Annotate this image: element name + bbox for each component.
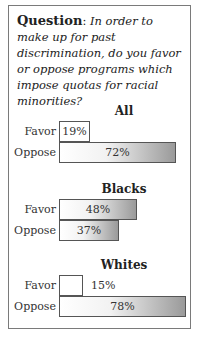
group-title-all: All — [59, 104, 189, 118]
group-title-blacks: Blacks — [59, 182, 189, 196]
category-label-oppose: Oppose — [14, 224, 56, 237]
question-label: Question — [17, 13, 82, 28]
question-block: Question: In order to make up for past d… — [17, 13, 185, 109]
category-label-oppose: Oppose — [14, 300, 56, 313]
data-label-all-favor: 19% — [59, 121, 90, 142]
data-label-whites-favor: 15% — [91, 275, 115, 296]
data-label-all-oppose: 72% — [59, 142, 176, 163]
group-title-whites: Whites — [59, 258, 189, 272]
question-separator: : — [82, 14, 90, 28]
category-label-favor: Favor — [24, 125, 56, 138]
data-label-blacks-favor: 48% — [59, 199, 137, 220]
category-label-oppose: Oppose — [14, 146, 56, 159]
category-label-favor: Favor — [24, 279, 56, 292]
category-label-favor: Favor — [24, 203, 56, 216]
bar-whites-favor — [59, 275, 83, 296]
data-label-whites-oppose: 78% — [59, 296, 186, 317]
data-label-blacks-oppose: 37% — [59, 220, 119, 241]
question-text: In order to make up for past discriminat… — [17, 14, 181, 108]
